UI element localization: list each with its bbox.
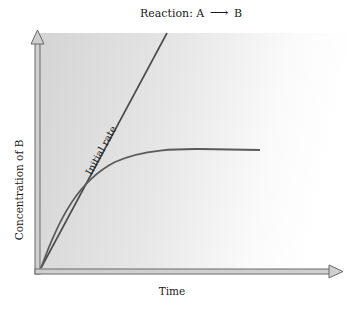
diagram-title: Reaction: A ⟶ B bbox=[140, 5, 242, 20]
plot-background bbox=[39, 33, 349, 270]
y-axis-label: Concentration of B bbox=[13, 139, 25, 240]
x-axis-label: Time bbox=[159, 285, 186, 297]
reaction-rate-diagram: Reaction: A ⟶ B Initial rate Concentrati… bbox=[0, 0, 359, 311]
